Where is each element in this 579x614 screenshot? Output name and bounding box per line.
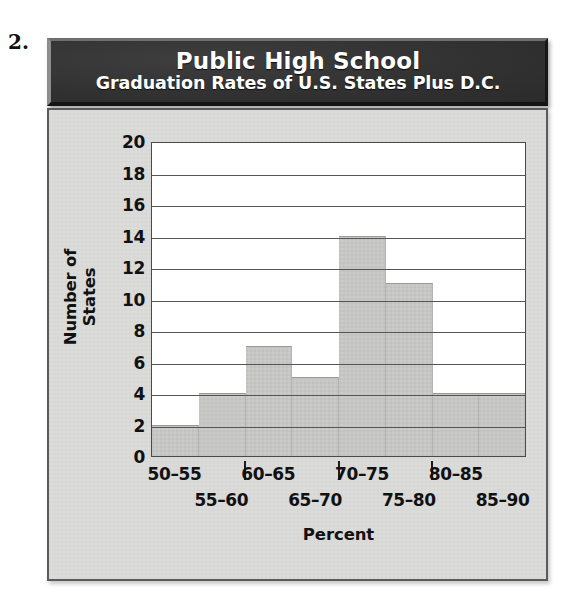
bar — [199, 393, 246, 456]
bar — [292, 377, 339, 456]
y-axis-tick-label: 14 — [87, 227, 145, 247]
chart-title-banner: Public High School Graduation Rates of U… — [47, 38, 548, 106]
y-axis-tick-label: 6 — [87, 353, 145, 373]
x-axis-tick-label: 65–70 — [288, 490, 342, 510]
x-axis-title: Percent — [151, 525, 526, 544]
x-axis-tick-label: 50–55 — [148, 464, 202, 484]
chart-figure: Public High School Graduation Rates of U… — [44, 34, 551, 584]
y-axis-tick-label: 16 — [87, 195, 145, 215]
x-axis-tick-label: 75–80 — [382, 490, 436, 510]
bar — [246, 346, 293, 456]
x-axis-tick-label: 70–75 — [335, 464, 389, 484]
y-axis-tick-label: 12 — [87, 258, 145, 278]
x-axis-tick-label: 85–90 — [476, 490, 530, 510]
y-axis-tick-label: 18 — [87, 164, 145, 184]
chart-title-primary: Public High School — [176, 49, 421, 73]
y-axis-tick-label: 2 — [87, 416, 145, 436]
x-axis-tick-label: 80–85 — [429, 464, 483, 484]
bar — [479, 393, 525, 456]
chart-title-secondary: Graduation Rates of U.S. States Plus D.C… — [96, 74, 500, 93]
x-axis-tick-label: 60–65 — [241, 464, 295, 484]
bar — [433, 393, 480, 456]
bar — [152, 425, 199, 457]
x-axis-tick-label: 55–60 — [194, 490, 248, 510]
chart-panel: Number of States 20181614121086420 50–55… — [47, 108, 548, 581]
y-axis-tick-label: 4 — [87, 384, 145, 404]
x-axis-tick-labels: 50–5555–6060–6565–7070–7575–8080–8585–90 — [151, 462, 526, 522]
bar-series — [152, 143, 525, 456]
problem-number: 2. — [8, 30, 29, 54]
y-axis-tick-labels: 20181614121086420 — [87, 142, 145, 457]
bar — [339, 236, 386, 457]
plot-area — [151, 142, 526, 457]
y-axis-tick-label: 10 — [87, 290, 145, 310]
bar — [386, 283, 433, 456]
y-axis-tick-label: 8 — [87, 321, 145, 341]
y-axis-tick-label: 20 — [87, 132, 145, 152]
y-axis-tick-label: 0 — [87, 447, 145, 467]
